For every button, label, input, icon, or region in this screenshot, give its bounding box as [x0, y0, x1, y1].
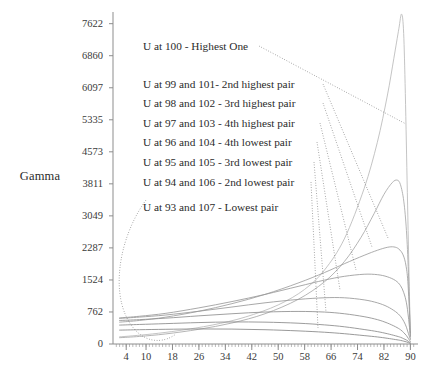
x-tick-label: 10 [134, 352, 158, 362]
x-tick-label: 90 [398, 352, 422, 362]
x-tick-label: 82 [372, 352, 396, 362]
leader-line-6 [311, 182, 318, 328]
series-curve-2 [120, 247, 411, 333]
leader-line-4 [317, 142, 340, 290]
series-curve-5 [120, 311, 411, 341]
legend-entry-7: U at 93 and 107 - Lowest pair [143, 201, 278, 213]
x-tick-label: 42 [240, 352, 264, 362]
leader-line-1 [323, 84, 388, 238]
leader-lines [119, 46, 406, 340]
legend-entry-4: U at 96 and 104 - 4th lowest pair [143, 136, 292, 148]
y-tick-label: 2287 [61, 243, 103, 253]
series-curve-7 [120, 329, 411, 343]
x-tick-label: 74 [346, 352, 370, 362]
x-tick-label: 50 [266, 352, 290, 362]
y-tick-label: 0 [61, 339, 103, 349]
leader-line-5 [314, 162, 326, 312]
legend-entry-1: U at 99 and 101- 2nd highest pair [143, 78, 295, 90]
legend-entry-2: U at 98 and 102 - 3rd highest pair [143, 97, 295, 109]
y-tick-label: 3811 [61, 179, 103, 189]
y-tick-label: 762 [61, 307, 103, 317]
gamma-chart: Gamma 0762152422873049381145735335609768… [0, 0, 428, 379]
y-tick-label: 3049 [61, 211, 103, 221]
x-tick-label: 58 [293, 352, 317, 362]
x-tick-label: 34 [213, 352, 237, 362]
x-tick-label: 18 [160, 352, 184, 362]
x-tick-label: 26 [187, 352, 211, 362]
y-tick-label: 6097 [61, 83, 103, 93]
legend-entry-3: U at 97 and 103 - 4th highest pair [143, 117, 295, 129]
leader-line-2 [323, 103, 372, 247]
y-tick-label: 5335 [61, 115, 103, 125]
series-curve-3 [120, 274, 411, 336]
y-tick-label: 7622 [61, 19, 103, 29]
legend-entry-0: U at 100 - Highest One [143, 40, 248, 52]
legend-entry-5: U at 95 and 105 - 3rd lowest pair [143, 156, 292, 168]
y-tick-label: 4573 [61, 147, 103, 157]
y-tick-label: 1524 [61, 275, 103, 285]
y-tick-label: 6860 [61, 51, 103, 61]
legend-entry-6: U at 94 and 106 - 2nd lowest pair [143, 176, 294, 188]
x-tick-label: 66 [319, 352, 343, 362]
